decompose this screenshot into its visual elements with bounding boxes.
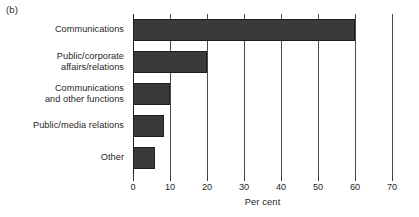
x-tick-mark [318, 174, 319, 181]
category-label: Communications [55, 24, 124, 35]
x-tick-label: 20 [202, 182, 212, 192]
x-tick-mark [392, 174, 393, 181]
x-tick-label: 0 [130, 182, 135, 192]
x-tick-mark [170, 174, 171, 181]
figure-panel-b: (b) CommunicationsPublic/corporate affai… [0, 0, 419, 217]
x-tick-mark [207, 174, 208, 181]
category-axis: CommunicationsPublic/corporate affairs/r… [0, 14, 129, 174]
x-tick-mark [133, 174, 134, 181]
bar [133, 19, 355, 40]
x-axis: 010203040506070 [133, 174, 392, 196]
x-tick-label: 30 [239, 182, 249, 192]
x-tick-label: 70 [387, 182, 397, 192]
category-label: Communications and other functions [45, 83, 124, 105]
x-tick-label: 60 [350, 182, 360, 192]
plot-area [133, 14, 392, 174]
x-axis-title: Per cent [133, 196, 392, 207]
gridline-70 [392, 14, 393, 174]
x-tick-label: 40 [276, 182, 286, 192]
bar [133, 147, 155, 168]
category-label: Public/media relations [33, 120, 124, 131]
x-tick-label: 50 [313, 182, 323, 192]
bar [133, 51, 207, 72]
x-tick-mark [355, 174, 356, 181]
category-label: Public/corporate affairs/relations [57, 51, 124, 73]
bar [133, 115, 164, 136]
category-label: Other [101, 152, 124, 163]
bar-series [133, 14, 392, 174]
bar [133, 83, 170, 104]
x-tick-label: 10 [165, 182, 175, 192]
x-tick-mark [244, 174, 245, 181]
x-tick-mark [281, 174, 282, 181]
